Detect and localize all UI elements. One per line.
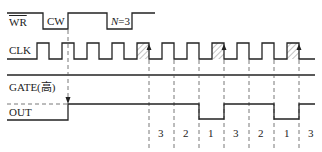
n-value: =3 <box>118 15 130 27</box>
n-label: N=3 <box>111 16 130 27</box>
out-waveform <box>7 104 315 120</box>
out-label: OUT <box>9 107 32 118</box>
clk-hatch-1 <box>137 43 149 59</box>
count-label: 2 <box>258 128 264 139</box>
cw-label: CW <box>47 16 65 27</box>
count-label: 3 <box>308 128 314 139</box>
wr-waveform <box>7 13 155 29</box>
count-label: 3 <box>233 128 239 139</box>
clk-hatch-2 <box>212 43 224 59</box>
wr-label: WR <box>9 17 27 28</box>
count-label: 1 <box>208 128 214 139</box>
count-label: 1 <box>284 128 290 139</box>
clk-waveform <box>7 43 315 59</box>
gate-label: GATE(高) <box>9 82 55 93</box>
count-label: 2 <box>183 128 189 139</box>
clk-label: CLK <box>9 45 31 56</box>
clk-hatch-3 <box>287 43 299 59</box>
gate-arrow-icon <box>66 97 71 104</box>
count-label: 3 <box>158 128 164 139</box>
